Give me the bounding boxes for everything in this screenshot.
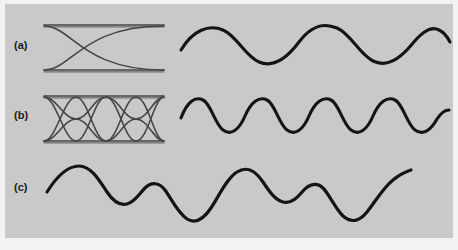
waveform-c-trace <box>47 166 411 221</box>
waveform-a <box>175 12 453 74</box>
eye-diagram-b <box>42 92 166 146</box>
row-label-b: (b) <box>14 110 28 121</box>
figure-background: (a) (b) <box>5 4 453 238</box>
waveform-b <box>175 86 453 144</box>
eye-b-curve-3 <box>44 97 164 141</box>
waveform-b-trace <box>181 99 449 133</box>
row-label-c: (c) <box>14 182 27 193</box>
figure-panel: (a) (b) <box>0 0 458 250</box>
eye-b-curve-4 <box>44 97 164 141</box>
waveform-c <box>41 154 453 234</box>
waveform-a-trace <box>181 25 450 63</box>
eye-diagram-a <box>42 21 166 75</box>
row-label-a: (a) <box>14 40 27 51</box>
